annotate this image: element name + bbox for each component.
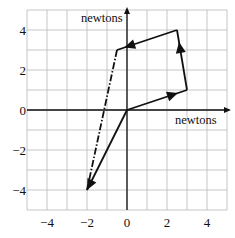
x-tick-label: −2 xyxy=(80,215,94,230)
x-axis-arrow-icon xyxy=(224,107,231,113)
y-tick-label: −4 xyxy=(12,183,26,198)
resultant-dashed xyxy=(87,50,117,190)
x-tick-label: 4 xyxy=(204,215,211,230)
y-tick-label: 4 xyxy=(20,23,27,38)
y-tick-label: 0 xyxy=(20,103,27,118)
y-axis-arrow-icon xyxy=(124,7,130,14)
y-tick-label: 2 xyxy=(20,63,27,78)
x-tick-label: −4 xyxy=(40,215,54,230)
x-tick-label: 0 xyxy=(124,215,131,230)
x-axis-label: newtons xyxy=(175,113,217,127)
vector-b-arrowhead-icon xyxy=(176,42,186,54)
vector-c-arrowhead-icon xyxy=(124,39,136,48)
y-tick-label: −2 xyxy=(12,143,26,158)
y-axis-label: newtons xyxy=(81,11,123,25)
x-tick-label: 2 xyxy=(164,215,171,230)
vector-diagram: −4−2024420−2−4 newtons newtons xyxy=(0,0,235,238)
vector-b xyxy=(177,30,187,90)
vector-a-arrowhead-icon xyxy=(166,92,178,101)
